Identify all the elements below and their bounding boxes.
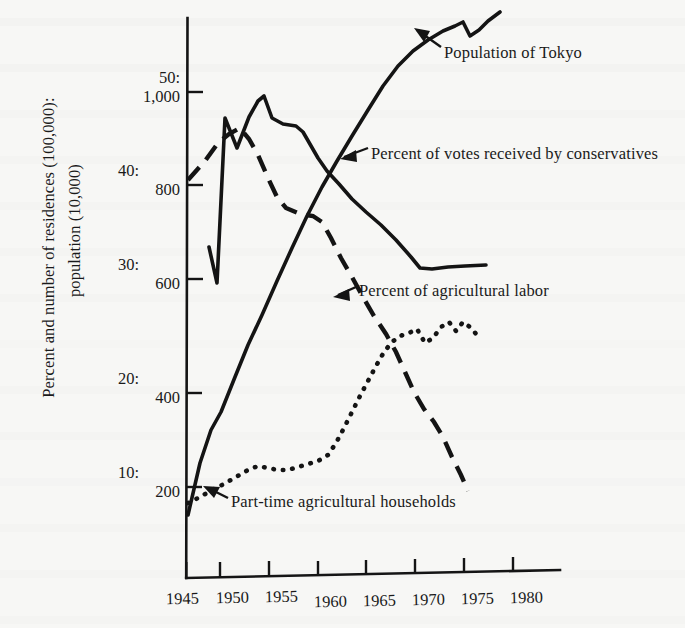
x-axis-line — [186, 570, 560, 578]
series-line-percent-of-votes-received-by-conservatives — [209, 96, 486, 283]
arrow-head-percent-of-agricultural-labor — [333, 289, 350, 301]
figure-page: Percent and number of residences (100,00… — [0, 0, 685, 628]
series-line-percent-of-agricultural-labor — [188, 128, 468, 491]
chart-plot-area — [0, 0, 685, 628]
y-axis-line — [186, 18, 187, 578]
annotation-arrows — [203, 28, 441, 498]
series-line-part-time-agricultural-households — [188, 322, 477, 503]
